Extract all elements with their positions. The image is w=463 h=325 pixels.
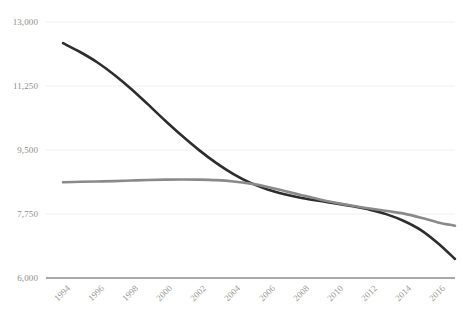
gridlines: [46, 22, 455, 214]
plot-lines: [63, 43, 455, 259]
y-tick-label: 9,500: [0, 145, 38, 155]
y-tick-label: 7,750: [0, 209, 38, 219]
y-tick-label: 6,000: [0, 273, 38, 283]
line-series-series-dark: [63, 43, 455, 259]
chart-canvas: [0, 0, 463, 325]
line-chart: 6,0007,7509,50011,25013,000 199419961998…: [0, 0, 463, 325]
y-tick-label: 13,000: [0, 17, 38, 27]
y-tick-label: 11,250: [0, 81, 38, 91]
